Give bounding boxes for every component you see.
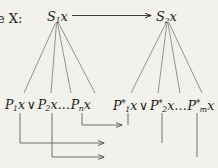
- left-term2-argument: x: [51, 97, 58, 112]
- left-disjunction-operator: ∨: [27, 97, 36, 112]
- s1-argument: x: [61, 9, 68, 24]
- left-disjunction-label: P1x∨P2x…Pnx: [5, 99, 91, 113]
- prefix-label: e X:: [0, 12, 22, 25]
- right-term3-argument: x: [207, 98, 214, 113]
- node-label-s2: S2x: [156, 10, 177, 25]
- bracket-arrow-middle: [20, 113, 162, 143]
- diagram-connectors: [0, 0, 218, 168]
- right-term3-base: P: [188, 98, 196, 113]
- s2-argument: x: [170, 9, 177, 24]
- left-term1-argument: x: [18, 97, 25, 112]
- left-fan-lines: [24, 23, 95, 93]
- right-disjunction-operator: ∨: [139, 98, 148, 113]
- bracket-arrow-outer: [52, 113, 197, 157]
- right-term1-argument: x: [130, 98, 137, 113]
- right-ellipsis: …: [174, 98, 187, 113]
- prefix-text-e: e X:: [0, 11, 22, 26]
- left-term3-base: P: [71, 97, 79, 112]
- node-label-s1: S1x: [47, 10, 68, 25]
- right-fan-lines: [131, 23, 202, 93]
- bracket-arrow-inner: [82, 113, 128, 125]
- left-ellipsis: …: [58, 97, 71, 112]
- left-term3-argument: x: [84, 97, 91, 112]
- derivation-diagram: e X: S1x S2x P1x∨P2x…Pnx P*1x∨P*2x…P*mx: [0, 0, 218, 168]
- right-disjunction-label: P*1x∨P*2x…P*mx: [113, 99, 214, 114]
- left-term2-base: P: [38, 97, 46, 112]
